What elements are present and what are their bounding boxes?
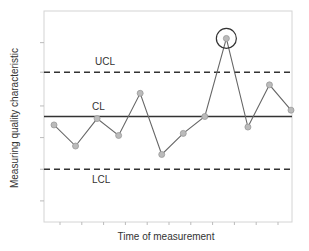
data-point <box>202 114 208 120</box>
y-axis-ticks <box>40 43 44 201</box>
y-axis-label: Measuring quality characteristic <box>9 48 20 188</box>
cl-label: CL <box>92 101 105 112</box>
data-point <box>223 35 229 41</box>
data-point <box>159 151 165 157</box>
lcl-label: LCL <box>92 174 111 185</box>
data-point <box>180 130 186 136</box>
measurement-line <box>54 38 291 154</box>
data-point <box>266 82 272 88</box>
data-point <box>51 122 57 128</box>
control-chart: UCL CL LCL Time of measurement Measuring… <box>0 0 309 251</box>
measurement-markers <box>51 35 294 157</box>
ucl-label: UCL <box>95 56 115 67</box>
data-point <box>245 124 251 130</box>
data-point <box>116 132 122 138</box>
x-axis-label: Time of measurement <box>118 231 215 242</box>
data-point <box>288 107 294 113</box>
data-point <box>137 90 143 96</box>
data-point <box>94 116 100 122</box>
data-point <box>73 143 79 149</box>
